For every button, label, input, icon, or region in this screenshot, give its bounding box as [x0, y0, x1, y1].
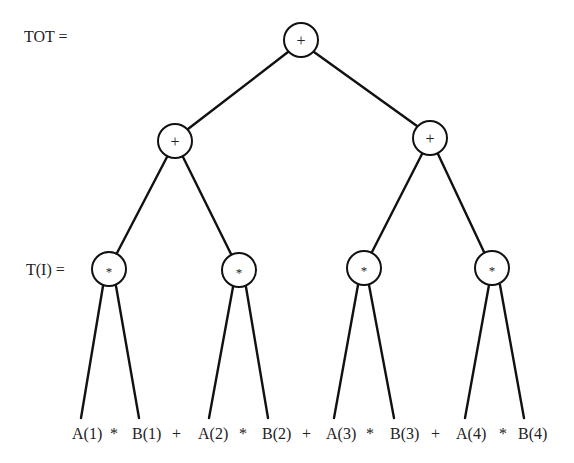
edge-mul3-b3 — [369, 285, 394, 418]
tot-label: TOT = — [24, 28, 68, 45]
edge-left-mul2 — [183, 157, 231, 254]
edge-mul4-a4 — [465, 285, 489, 418]
leaf-expression: A(1) * B(1) + A(2) * B(2) + A(3) * B(3) … — [72, 425, 547, 443]
op-mul: * — [366, 425, 374, 442]
tree-edges — [81, 52, 524, 418]
node-left-sum: + — [158, 124, 192, 158]
edge-mul2-a2 — [209, 287, 233, 418]
node-right-sum: + — [413, 121, 447, 155]
op-mul: * — [110, 425, 118, 442]
plus-icon: + — [296, 32, 305, 49]
leaf-a2: A(2) — [198, 425, 228, 443]
asterisk-icon: * — [236, 265, 243, 280]
op-plus: + — [431, 425, 440, 442]
asterisk-icon: * — [489, 263, 496, 278]
leaf-b4: B(4) — [518, 425, 547, 443]
expression-tree-diagram: + + + * * * * TOT = T(I) = A(1) * B(1) +… — [0, 0, 574, 463]
edge-right-mul3 — [372, 154, 422, 252]
leaf-a3: A(3) — [326, 425, 356, 443]
leaf-b1: B(1) — [132, 425, 161, 443]
node-mul-4: * — [475, 251, 509, 285]
edge-mul1-a1 — [81, 286, 103, 418]
op-mul: * — [499, 425, 507, 442]
plus-icon: + — [425, 130, 434, 147]
node-mul-1: * — [92, 252, 126, 286]
leaf-b3: B(3) — [390, 425, 419, 443]
op-plus: + — [302, 425, 311, 442]
edge-root-right — [314, 52, 417, 126]
edge-mul1-b1 — [116, 286, 139, 418]
edge-mul4-b4 — [500, 285, 524, 418]
plus-icon: + — [170, 133, 179, 150]
edge-mul2-b2 — [246, 287, 268, 418]
leaf-b2: B(2) — [262, 425, 291, 443]
op-mul: * — [239, 425, 247, 442]
op-plus: + — [172, 425, 181, 442]
edge-right-mul4 — [438, 154, 484, 252]
node-root: + — [284, 23, 318, 57]
asterisk-icon: * — [106, 264, 113, 279]
edge-mul3-a3 — [334, 285, 358, 418]
leaf-a4: A(4) — [456, 425, 486, 443]
edge-root-left — [188, 52, 288, 129]
t-of-i-label: T(I) = — [26, 261, 65, 279]
leaf-a1: A(1) — [72, 425, 102, 443]
asterisk-icon: * — [361, 263, 368, 278]
edge-left-mul1 — [117, 157, 167, 253]
node-mul-3: * — [347, 251, 381, 285]
node-mul-2: * — [222, 253, 256, 287]
